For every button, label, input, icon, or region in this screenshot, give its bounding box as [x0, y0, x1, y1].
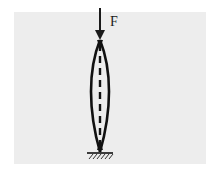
fixed-support-icon	[87, 153, 113, 159]
force-arrow-icon	[95, 8, 105, 40]
force-label: F	[110, 14, 118, 30]
